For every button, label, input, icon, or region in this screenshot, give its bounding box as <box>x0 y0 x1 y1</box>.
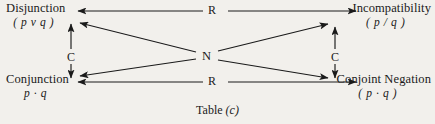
edge-label-n-center: N <box>198 50 215 63</box>
edge-n-to-disjunction <box>80 23 196 52</box>
edge-label-r-top: R <box>205 4 219 16</box>
node-incompatibility-formula: ( p / q ) <box>352 16 431 28</box>
node-disjunction-formula: ( p v q ) <box>6 16 65 28</box>
node-incompatibility-label: Incompatibility <box>352 2 431 15</box>
node-conjunction-formula: p · q <box>6 87 69 99</box>
caption-text: Table <box>196 103 222 117</box>
node-incompatibility[interactable]: Incompatibility ( p / q ) <box>352 2 431 28</box>
diagram-caption: Table (c) <box>0 103 435 118</box>
node-conjoint-negation-formula: ( p · q ) <box>337 87 431 99</box>
edge-n-to-conjoint-negation <box>218 60 328 78</box>
edge-label-c-left: C <box>64 51 78 63</box>
node-conjoint-negation[interactable]: Conjoint Negation ( p · q ) <box>337 73 431 99</box>
edge-n-to-incompatibility <box>218 24 328 51</box>
caption-letter: (c) <box>226 103 239 117</box>
node-conjoint-negation-label: Conjoint Negation <box>337 73 431 86</box>
node-conjunction-label: Conjunction <box>6 73 69 86</box>
logic-relations-diagram: Disjunction ( p v q ) Incompatibility ( … <box>0 0 435 124</box>
edge-n-to-conjunction <box>80 59 196 76</box>
node-disjunction[interactable]: Disjunction ( p v q ) <box>6 2 65 28</box>
edge-label-r-bottom: R <box>205 75 219 87</box>
edge-label-c-right: C <box>328 51 342 63</box>
node-conjunction[interactable]: Conjunction p · q <box>6 73 69 99</box>
node-disjunction-label: Disjunction <box>6 2 65 15</box>
